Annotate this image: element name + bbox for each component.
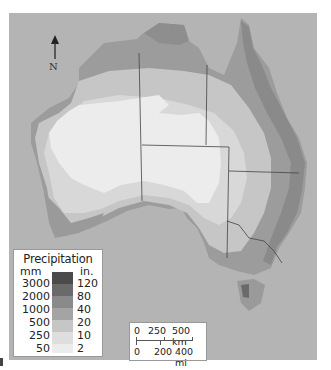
legend-swatch-2000	[52, 284, 73, 296]
scale-bar: 0 250 500 km 0 200 400 mi	[129, 322, 207, 361]
legend-in-value: 10	[77, 329, 91, 342]
legend-swatch-500	[52, 308, 73, 320]
scale-km-500: 500 km	[172, 325, 206, 347]
legend-swatch-250	[52, 320, 73, 332]
scale-mi-400: 400 mi	[175, 346, 206, 368]
legend-mm-value: 2000	[22, 290, 50, 303]
legend-swatch-3000	[52, 272, 73, 284]
scale-tick	[160, 341, 161, 345]
north-label: N	[49, 61, 58, 72]
scale-mi-200: 200	[154, 346, 172, 357]
legend-mm-value: 500	[29, 316, 50, 329]
north-arrow-icon	[47, 35, 63, 79]
legend-in-value: 80	[77, 290, 91, 303]
scale-tick	[192, 337, 193, 340]
scale-km-250: 250	[148, 325, 166, 336]
legend-mm-value: 250	[29, 329, 50, 342]
legend-in-value: 20	[77, 316, 91, 329]
legend-swatch-1000	[52, 296, 73, 308]
legend-swatch-50	[52, 332, 73, 344]
legend-mm-value: 50	[36, 342, 50, 355]
legend-in-value: 40	[77, 303, 91, 316]
edge-mark	[0, 358, 3, 366]
scale-km-0: 0	[134, 325, 140, 336]
legend-title: Precipitation	[14, 252, 102, 266]
tasmania	[237, 279, 265, 311]
legend-in-value: 2	[77, 342, 84, 355]
legend-in-value: 120	[77, 277, 98, 290]
legend-swatch-min	[52, 344, 73, 353]
precipitation-legend: Precipitation mm in. 3000 2000 1000 500 …	[13, 249, 103, 357]
scale-tick	[164, 337, 165, 340]
legend-mm-value: 3000	[22, 277, 50, 290]
scale-mi-0: 0	[134, 346, 140, 357]
legend-mm-value: 1000	[22, 303, 50, 316]
scale-tick	[136, 337, 137, 345]
scale-tick	[185, 341, 186, 345]
